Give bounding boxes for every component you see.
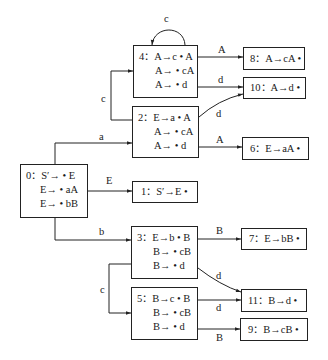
edge-label-3-5: c [100,284,105,295]
arrow-2-4 [111,71,133,120]
item: B→ • cB [137,245,197,259]
item: A→ • cA [139,64,197,78]
arrow-3-5 [109,264,131,313]
edge-label-3-7: B [216,225,223,236]
item: E→ • bB [26,197,87,211]
edge-label-0-1: E [106,175,112,186]
item: E→aA • [265,143,300,154]
item: E→a • A [153,112,191,123]
state-id: 4： [139,51,154,62]
edge-label-0-2: a [99,131,104,142]
state-id: 5： [137,293,152,304]
state-id: 1： [141,186,156,197]
state-id: 2： [138,112,153,123]
edge-label-4-4: c [164,13,169,24]
item: B→ • d [137,320,197,334]
item: B→ • cB [137,306,197,320]
item: A→ • cA [138,125,198,139]
item: B→cB • [263,324,298,335]
item: B→d • [268,295,297,306]
state-id: 6： [250,143,265,154]
state-6: 6：E→aA • [242,137,309,160]
state-id: 11： [248,295,268,306]
arrow-0-3 [55,218,131,240]
edge-label-2-10: d [216,108,221,119]
state-10: 10：A→d • [243,77,306,99]
item: S′→E • [156,186,187,197]
state-7: 7：E→bB • [241,228,307,250]
state-1: 1：S′→E • [132,181,198,203]
edge-label-0-3: b [99,226,104,237]
state-0: 0：S′→ • E E→ • aA E→ • bB [20,164,88,218]
item: S′→ • E [41,170,75,181]
state-id: 0： [26,170,41,181]
state-5: 5：B→c • B B→ • cB B→ • d [131,287,198,340]
state-id: 8： [250,53,265,64]
state-id: 10： [250,82,271,93]
state-11: 11：B→d • [241,289,307,312]
state-8: 8：A→cA • [243,47,305,70]
edge-label-3-11: d [216,270,221,281]
item: A→cA • [265,53,301,64]
edge-label-4-10: d [218,74,223,85]
item: E→b • B [152,232,190,243]
item: E→bB • [264,233,299,244]
item: A→c • A [154,51,193,62]
item: B→ • d [137,259,197,273]
edge-label-5-9: B [216,332,223,343]
state-id: 3： [137,232,152,243]
state-2: 2：E→a • A A→ • cA A→ • d [132,106,199,158]
edge-label-2-4: c [101,93,106,104]
edge-label-5-11: d [216,302,221,313]
state-4: 4：A→c • A A→ • cA A→ • d [133,45,198,98]
state-9: 9：B→cB • [240,318,308,341]
item: A→d • [271,82,301,93]
item: B→c • B [152,293,190,304]
edge-label-4-8: A [218,44,226,55]
item: A→ • d [138,139,198,153]
state-3: 3：E→b • B B→ • cB B→ • d [131,226,198,279]
arrow-4-4 [152,30,185,45]
state-id: 7： [249,233,264,244]
state-id: 9： [248,324,263,335]
item: A→ • d [139,78,197,92]
item: E→ • aA [26,183,87,197]
edge-label-2-6: A [216,134,224,145]
arrow-0-2 [55,143,132,164]
